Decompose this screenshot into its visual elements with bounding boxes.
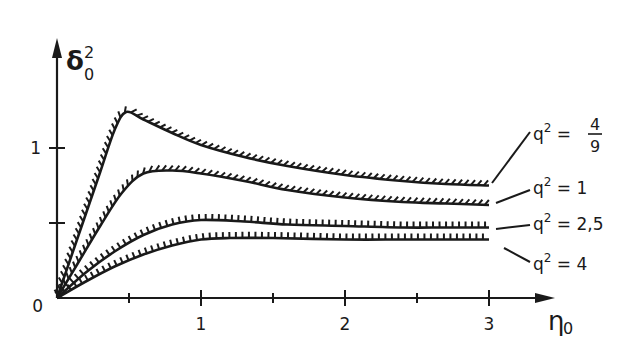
series-label: q2 = 2,5 <box>533 211 604 234</box>
hatch-mark <box>80 216 83 221</box>
hatch-mark <box>92 179 95 184</box>
hatch-mark <box>120 257 122 262</box>
hatch-mark <box>67 253 70 258</box>
hatch-mark <box>189 235 190 241</box>
hatch-mark <box>107 206 109 212</box>
hatch-mark <box>148 119 154 122</box>
x-axis-label-sub: 0 <box>563 319 573 338</box>
hatch-mark <box>112 124 115 130</box>
hatch-mark <box>73 262 75 268</box>
hatch-mark <box>96 222 98 228</box>
hatch-mark <box>69 247 72 252</box>
hatch-mark <box>76 256 78 262</box>
hatch-mark <box>134 233 137 238</box>
hatch-mark <box>71 241 74 246</box>
x-axis-label: η <box>548 306 564 336</box>
hatch-mark <box>95 173 98 178</box>
hatch-mark <box>76 228 79 233</box>
hatch-mark <box>74 234 77 239</box>
hatch-mark <box>154 122 160 125</box>
y-axis-label-sub: 0 <box>84 65 94 84</box>
hatch-mark <box>202 142 207 145</box>
hatch-mark <box>96 269 99 274</box>
hatch-mark <box>127 179 128 185</box>
hatch-mark <box>115 118 118 124</box>
hatch-mark <box>79 278 82 283</box>
hatch-mark <box>103 211 105 217</box>
hatch-mark <box>129 236 132 241</box>
hatch-mark <box>65 259 68 264</box>
leader-line <box>496 225 530 229</box>
hatch-mark <box>86 198 89 203</box>
hatch-mark <box>80 250 82 256</box>
hatch-mark <box>125 106 126 112</box>
hatch-mark <box>166 127 172 130</box>
curve-series <box>56 165 489 298</box>
hatch-mark <box>122 184 123 190</box>
leader-line <box>504 248 530 262</box>
hatch-mark <box>101 254 104 259</box>
hatch-mark <box>90 185 93 190</box>
hatch-mark <box>142 116 148 119</box>
hatch-mark <box>153 224 155 230</box>
hatch-mark <box>132 252 134 258</box>
hatch-mark <box>189 138 195 141</box>
hatch-mark <box>114 260 117 265</box>
hatch-mark <box>108 263 111 268</box>
curve-series <box>57 232 489 298</box>
hatch-mark <box>160 124 166 127</box>
fraction-denominator: 9 <box>590 137 600 156</box>
hatch-mark <box>63 265 66 270</box>
series-label: q2 = 1 <box>533 175 587 198</box>
x-tick-label: 2 <box>340 314 351 334</box>
hatch-mark <box>139 250 141 256</box>
hatch-mark <box>172 130 178 133</box>
hatch-mark <box>112 246 115 251</box>
series-label: q2 = <box>533 121 571 144</box>
hatch-mark <box>145 248 147 254</box>
hatch-mark <box>75 274 79 279</box>
hatch-mark <box>103 148 107 153</box>
hatch-mark <box>151 245 153 251</box>
fraction-numerator: 4 <box>590 115 600 134</box>
hatch-mark <box>123 239 126 244</box>
hatch-mark <box>101 155 105 160</box>
origin-label: 0 <box>32 296 43 316</box>
hatch-mark <box>137 114 143 116</box>
hatch-mark <box>179 217 180 223</box>
hatch-mark <box>131 109 137 112</box>
axes <box>49 38 555 306</box>
hatch-mark <box>66 273 68 279</box>
hatch-mark <box>106 250 109 255</box>
hatch-mark <box>61 271 64 276</box>
hatch-mark <box>183 135 189 138</box>
hatch-mark <box>117 243 120 248</box>
hatch-mark <box>177 238 178 244</box>
hatch-mark <box>126 255 128 261</box>
hatch-mark <box>99 161 102 166</box>
hatch-mark <box>196 234 197 240</box>
hatch-mark <box>97 167 100 172</box>
hatch-mark <box>183 237 184 243</box>
hatch-mark <box>90 234 92 240</box>
hatch-mark <box>102 266 105 271</box>
hatch-mark <box>109 130 112 136</box>
curve-line <box>57 112 489 298</box>
y-tick-label: 1 <box>30 138 41 158</box>
curves <box>55 106 489 298</box>
curve-series <box>55 214 489 298</box>
hatch-mark <box>83 245 85 251</box>
hatch-mark <box>195 140 200 143</box>
x-tick-label: 3 <box>484 314 495 334</box>
y-axis-arrow-icon <box>52 38 62 58</box>
hatch-mark <box>105 142 108 147</box>
hatch-mark <box>80 270 84 275</box>
hatch-mark <box>110 200 112 206</box>
series-label: q2 = 4 <box>533 251 587 274</box>
hatch-mark <box>107 136 110 141</box>
hatch-mark <box>78 222 81 227</box>
hatch-mark <box>85 275 88 280</box>
hatch-mark <box>203 233 204 239</box>
hatch-mark <box>84 204 87 209</box>
hatch-mark <box>100 217 102 223</box>
